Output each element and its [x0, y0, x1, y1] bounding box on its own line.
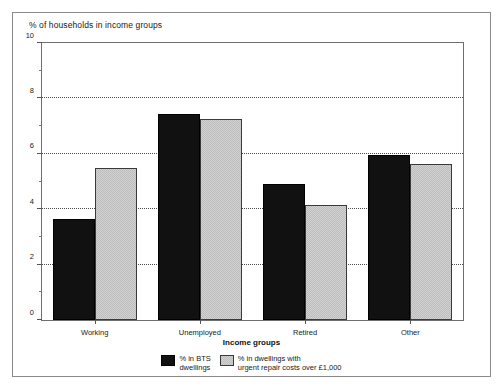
y-tick-minor-1	[39, 291, 42, 292]
x-axis-title: Income groups	[13, 338, 490, 347]
y-tick-8	[37, 97, 42, 98]
gridline-y-8	[42, 97, 463, 98]
legend-swatch-repair	[220, 355, 234, 366]
bar-retired-bts	[263, 184, 305, 320]
legend-entry-repair: % in dwellings with urgent repair costs …	[220, 354, 342, 372]
bar-unemployed-repair	[200, 119, 242, 320]
x-tick-other	[410, 320, 411, 324]
y-tick-0	[37, 319, 42, 320]
bar-retired-repair	[305, 205, 347, 320]
x-tick-label-retired: Retired	[293, 328, 317, 337]
legend-label-repair: % in dwellings with urgent repair costs …	[238, 354, 342, 372]
gridline-y-6	[42, 153, 463, 154]
x-tick-label-other: Other	[401, 328, 420, 337]
legend-entry-bts: % in BTS dwellings	[161, 354, 210, 372]
bar-working-bts	[53, 219, 95, 320]
y-tick-label-8: 8	[30, 85, 34, 94]
x-tick-label-working: Working	[81, 328, 108, 337]
legend-swatch-bts	[161, 355, 175, 366]
y-tick-minor-3	[39, 236, 42, 237]
bar-working-repair	[95, 168, 137, 320]
legend-label-bts: % in BTS dwellings	[179, 354, 210, 372]
y-tick-minor-5	[39, 181, 42, 182]
figure-container: % of households in income groups 0246810…	[12, 12, 491, 377]
y-tick-label-4: 4	[30, 196, 34, 205]
y-tick-10	[37, 42, 42, 43]
bar-other-repair	[410, 164, 452, 321]
y-tick-label-10: 10	[26, 30, 34, 39]
y-tick-label-0: 0	[30, 307, 34, 316]
y-tick-minor-9	[39, 70, 42, 71]
x-tick-retired	[305, 320, 306, 324]
x-tick-unemployed	[200, 320, 201, 324]
y-tick-4	[37, 208, 42, 209]
x-tick-label-unemployed: Unemployed	[179, 328, 221, 337]
x-tick-working	[95, 320, 96, 324]
chart-legend: % in BTS dwellings% in dwellings with ur…	[13, 354, 490, 372]
y-tick-label-2: 2	[30, 252, 34, 261]
bar-other-bts	[368, 155, 410, 320]
y-tick-2	[37, 264, 42, 265]
y-tick-6	[37, 153, 42, 154]
y-tick-minor-7	[39, 125, 42, 126]
chart-title: % of households in income groups	[29, 20, 162, 30]
y-tick-label-6: 6	[30, 141, 34, 150]
plot-area: 0246810 WorkingUnemployedRetiredOther	[41, 42, 464, 321]
bar-unemployed-bts	[158, 114, 200, 320]
